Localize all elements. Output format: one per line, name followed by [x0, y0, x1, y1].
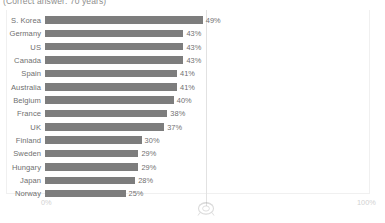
category-label: Norway — [0, 188, 41, 199]
bar-rows: S. Korea49%Germany43%US43%Canada43%Spain… — [0, 14, 385, 201]
bar-row: Belgium40% — [0, 94, 385, 107]
category-label: Australia — [0, 82, 41, 93]
bar-row: Sweden29% — [0, 147, 385, 160]
bar-value-label: 25% — [129, 188, 144, 199]
bar — [45, 96, 174, 103]
bar-track: 49% — [45, 14, 373, 27]
bar — [45, 163, 138, 170]
bar-track: 28% — [45, 174, 373, 187]
bar-track: 38% — [45, 107, 373, 120]
bar-row: UK37% — [0, 121, 385, 134]
bar — [45, 83, 177, 90]
bar-value-label: 38% — [170, 108, 185, 119]
category-label: Canada — [0, 55, 41, 66]
category-label: Belgium — [0, 95, 41, 106]
bar-row: S. Korea49% — [0, 14, 385, 27]
category-label: US — [0, 42, 41, 53]
chart-subtitle: (Correct answer: 70 years) — [3, 0, 106, 6]
bar — [45, 43, 183, 50]
bar-value-label: 43% — [186, 42, 201, 53]
bar-value-label: 49% — [206, 15, 221, 26]
category-label: UK — [0, 122, 41, 133]
bar-value-label: 29% — [141, 148, 156, 159]
x-axis-tick-min: 0% — [41, 198, 52, 208]
bar-value-label: 41% — [180, 82, 195, 93]
category-label: Spain — [0, 68, 41, 79]
category-label: France — [0, 108, 41, 119]
bar — [45, 110, 167, 117]
bar-row: Finland30% — [0, 134, 385, 147]
bar-value-label: 37% — [167, 122, 182, 133]
category-label: Sweden — [0, 148, 41, 159]
bar-track: 43% — [45, 54, 373, 67]
bar-value-label: 29% — [141, 162, 156, 173]
bar-track: 29% — [45, 147, 373, 160]
bar-value-label: 43% — [186, 55, 201, 66]
bar-row: Spain41% — [0, 67, 385, 80]
x-axis-tick-max: 100% — [357, 198, 376, 208]
bar-track: 41% — [45, 81, 373, 94]
bar — [45, 70, 177, 77]
bar-row: Norway25% — [0, 187, 385, 200]
bar-chart: (Correct answer: 70 years) S. Korea49%Ge… — [0, 0, 385, 223]
bar-track: 29% — [45, 161, 373, 174]
bar — [45, 16, 203, 23]
bar — [45, 30, 183, 37]
bar-row: Canada43% — [0, 54, 385, 67]
bar — [45, 56, 183, 63]
bar-row: Germany43% — [0, 27, 385, 40]
bar-value-label: 30% — [145, 135, 160, 146]
bar-track: 43% — [45, 27, 373, 40]
bar — [45, 150, 138, 157]
bar-track: 37% — [45, 121, 373, 134]
category-label: Hungary — [0, 162, 41, 173]
category-label: Finland — [0, 135, 41, 146]
correct-answer-marker-icon — [194, 199, 218, 217]
bar-value-label: 40% — [177, 95, 192, 106]
category-label: S. Korea — [0, 15, 41, 26]
bar-track: 43% — [45, 41, 373, 54]
bar-row: Japan28% — [0, 174, 385, 187]
bar-row: Hungary29% — [0, 161, 385, 174]
bar-row: US43% — [0, 41, 385, 54]
bar-row: France38% — [0, 107, 385, 120]
bar — [45, 177, 135, 184]
bar-value-label: 41% — [180, 68, 195, 79]
bar-track: 41% — [45, 67, 373, 80]
bar-row: Australia41% — [0, 81, 385, 94]
category-label: Japan — [0, 175, 41, 186]
bar — [45, 123, 164, 130]
bar — [45, 136, 142, 143]
bar-track: 40% — [45, 94, 373, 107]
bar — [45, 190, 126, 197]
bar-value-label: 43% — [186, 28, 201, 39]
bar-value-label: 28% — [138, 175, 153, 186]
category-label: Germany — [0, 28, 41, 39]
bar-track: 30% — [45, 134, 373, 147]
